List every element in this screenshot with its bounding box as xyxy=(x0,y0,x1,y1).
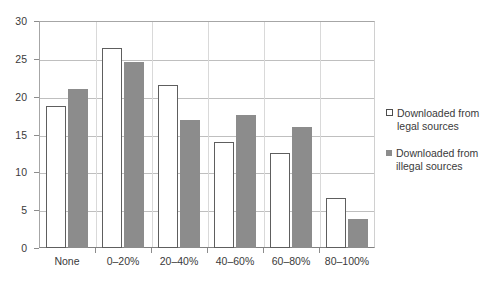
bar-legal xyxy=(270,153,290,248)
x-tick-mark xyxy=(207,248,208,253)
x-tick-mark xyxy=(263,248,264,253)
legend-label-illegal-line2: illegal sources xyxy=(396,160,463,172)
legend-label-legal-line1: Downloaded from xyxy=(397,107,479,119)
legend-label-illegal: Downloaded from illegal sources xyxy=(396,147,478,173)
y-tick-label: 15 xyxy=(15,130,27,141)
x-tick-label: 60–80% xyxy=(272,255,311,267)
x-tick-label: 80–100% xyxy=(325,255,369,267)
bar-illegal xyxy=(292,127,312,248)
legend-item-illegal: Downloaded from illegal sources xyxy=(386,147,494,173)
y-tick-label: 0 xyxy=(21,243,27,254)
x-tick-label: 20–40% xyxy=(160,255,199,267)
y-axis: 051015202530 xyxy=(0,0,39,291)
bar-legal xyxy=(214,142,234,248)
x-tick-mark xyxy=(95,248,96,253)
y-tick-label: 5 xyxy=(21,205,27,216)
legend-item-legal: Downloaded from legal sources xyxy=(386,107,494,133)
bar-legal xyxy=(326,198,346,248)
y-tick-label: 20 xyxy=(15,92,27,103)
legend-label-legal-line2: legal sources xyxy=(397,120,459,132)
bar-illegal xyxy=(68,89,88,248)
bar-illegal xyxy=(348,219,368,249)
bar-illegal xyxy=(124,62,144,248)
legend-swatch-legal-icon xyxy=(386,109,393,116)
x-tick-mark xyxy=(151,248,152,253)
chart-legend: Downloaded from legal sources Downloaded… xyxy=(386,107,494,187)
bar-legal xyxy=(46,106,66,248)
bars-layer xyxy=(39,21,375,248)
x-tick-label: 0–20% xyxy=(107,255,140,267)
y-tick-mark xyxy=(34,248,39,249)
x-tick-label: 40–60% xyxy=(216,255,255,267)
y-tick-label: 30 xyxy=(15,16,27,27)
bar-chart: 051015202530 None0–20%20–40%40–60%60–80%… xyxy=(0,0,495,291)
legend-label-legal: Downloaded from legal sources xyxy=(397,107,479,133)
legend-swatch-illegal-icon xyxy=(386,150,392,156)
legend-label-illegal-line1: Downloaded from xyxy=(396,147,478,159)
bar-illegal xyxy=(180,120,200,248)
x-tick-mark xyxy=(319,248,320,253)
x-tick-label: None xyxy=(54,255,79,267)
y-tick-label: 10 xyxy=(15,167,27,178)
bar-legal xyxy=(158,85,178,248)
bar-legal xyxy=(102,48,122,248)
bar-illegal xyxy=(236,115,256,248)
x-axis: None0–20%20–40%40–60%60–80%80–100% xyxy=(39,255,375,275)
y-tick-label: 25 xyxy=(15,54,27,65)
